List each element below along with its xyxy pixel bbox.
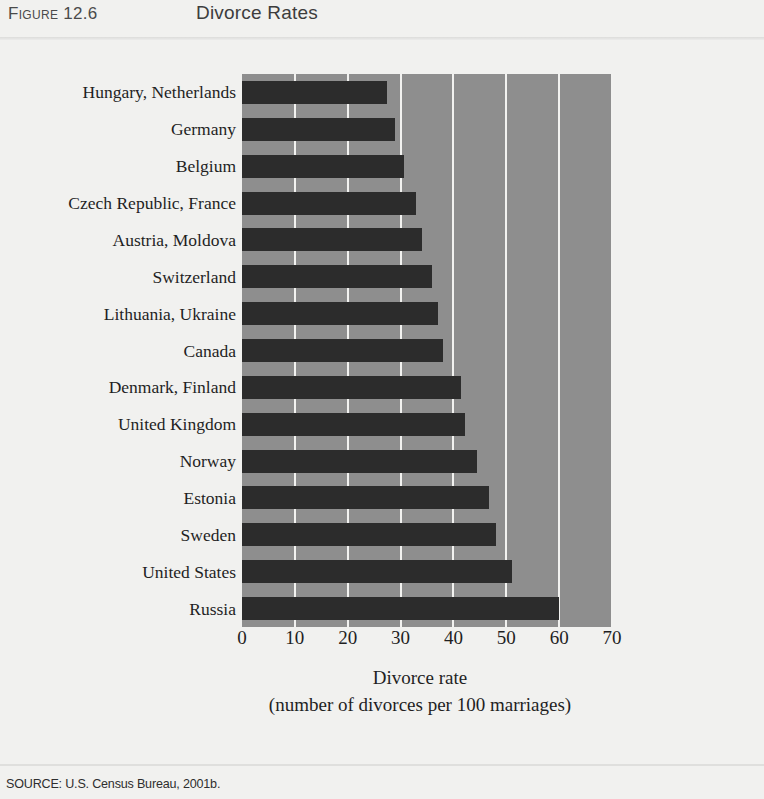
- category-label: Sweden: [0, 525, 236, 545]
- x-tick-label: 30: [381, 627, 421, 649]
- source-note: SOURCE: U.S. Census Bureau, 2001b.: [6, 776, 220, 791]
- x-tick-label: 60: [539, 627, 579, 649]
- bar: [242, 265, 432, 288]
- bar: [242, 413, 465, 436]
- bar: [242, 339, 443, 362]
- x-axis-title: Divorce rate (number of divorces per 100…: [160, 664, 680, 718]
- category-label: Austria, Moldova: [0, 230, 236, 250]
- bar: [242, 192, 416, 215]
- x-tick-label: 40: [433, 627, 473, 649]
- x-tick-label: 50: [486, 627, 526, 649]
- category-label: United States: [0, 562, 236, 582]
- category-label: Denmark, Finland: [0, 377, 236, 397]
- x-tick-label: 20: [328, 627, 368, 649]
- category-label: United Kingdom: [0, 414, 236, 434]
- category-label: Canada: [0, 341, 236, 361]
- x-axis-title-line1: Divorce rate: [160, 664, 680, 691]
- bar: [242, 560, 512, 583]
- category-label: Estonia: [0, 488, 236, 508]
- category-label: Germany: [0, 119, 236, 139]
- category-axis-labels: Hungary, NetherlandsGermanyBelgiumCzech …: [0, 74, 236, 627]
- bar: [242, 486, 489, 509]
- category-label: Norway: [0, 451, 236, 471]
- category-label: Hungary, Netherlands: [0, 82, 236, 102]
- category-label: Russia: [0, 599, 236, 619]
- bar: [242, 302, 438, 325]
- category-label: Czech Republic, France: [0, 193, 236, 213]
- bar: [242, 81, 387, 104]
- bar: [242, 597, 559, 620]
- source-divider: [0, 764, 764, 766]
- bar: [242, 155, 404, 178]
- x-tick-label: 70: [592, 627, 632, 649]
- figure-title: Divorce Rates: [196, 2, 318, 24]
- category-label: Belgium: [0, 156, 236, 176]
- bar: [242, 228, 422, 251]
- category-label: Lithuania, Ukraine: [0, 304, 236, 324]
- bar: [242, 523, 496, 546]
- figure-header: Figure 12.6 Divorce Rates: [0, 0, 764, 34]
- category-label: Switzerland: [0, 267, 236, 287]
- x-tick-label: 10: [275, 627, 315, 649]
- bar: [242, 450, 477, 473]
- bar: [242, 118, 395, 141]
- x-tick-label: 0: [222, 627, 262, 649]
- bars-layer: [242, 74, 612, 627]
- bar: [242, 376, 461, 399]
- x-axis-title-line2: (number of divorces per 100 marriages): [160, 691, 680, 718]
- x-axis-ticks: 010203040506070: [242, 627, 642, 657]
- figure-body: Hungary, NetherlandsGermanyBelgiumCzech …: [0, 40, 764, 760]
- figure-number: Figure 12.6: [8, 4, 98, 24]
